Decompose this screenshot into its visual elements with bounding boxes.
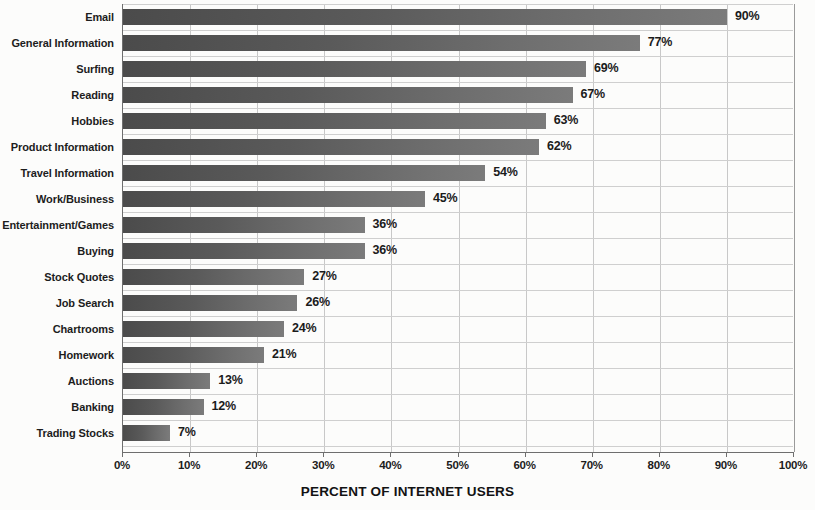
category-label: Travel Information [0,160,114,186]
bar-value-label: 63% [554,111,578,130]
category-label: Email [0,4,114,30]
bar [123,217,365,233]
x-tick-label: 10% [159,459,219,471]
bar [123,321,284,337]
category-label: Buying [0,238,114,264]
category-label: Product Information [0,134,114,160]
bar-value-label: 27% [312,267,336,286]
bar-value-label: 36% [373,215,397,234]
bar [123,139,539,155]
x-tick-mark [323,452,324,457]
bar-row: 90% [123,4,794,30]
bar [123,165,485,181]
category-label: Job Search [0,290,114,316]
category-label: General Information [0,30,114,56]
x-tick-label: 30% [293,459,353,471]
x-tick-label: 50% [428,459,488,471]
bar [123,269,304,285]
bar-value-label: 12% [212,397,236,416]
category-label: Entertainment/Games [0,212,114,238]
x-tick-label: 80% [629,459,689,471]
x-tick-mark [458,452,459,457]
bar-row: 21% [123,342,794,368]
bar [123,399,204,415]
x-tick-mark [793,452,794,457]
bar-value-label: 24% [292,319,316,338]
category-label: Stock Quotes [0,264,114,290]
bar-row: 63% [123,108,794,134]
bar-row: 7% [123,420,794,446]
bar [123,9,727,25]
x-tick-label: 40% [360,459,420,471]
row-gridline [123,446,793,447]
bar-row: 54% [123,160,794,186]
bar-value-label: 69% [594,59,618,78]
bar-value-label: 67% [581,85,605,104]
category-label: Work/Business [0,186,114,212]
bar-chart: 90%77%69%67%63%62%54%45%36%36%27%26%24%2… [0,0,815,510]
x-tick-mark [390,452,391,457]
x-axis-title: PERCENT OF INTERNET USERS [0,484,815,499]
bar-value-label: 26% [305,293,329,312]
bar-value-label: 54% [493,163,517,182]
bar-value-label: 7% [178,423,196,442]
category-label: Homework [0,342,114,368]
category-label: Banking [0,394,114,420]
x-tick-mark [256,452,257,457]
bar [123,113,546,129]
bar-row: 69% [123,56,794,82]
bar-value-label: 90% [735,7,759,26]
bar [123,373,210,389]
bar-row: 26% [123,290,794,316]
x-tick-label: 20% [226,459,286,471]
category-label: Surfing [0,56,114,82]
plot-area: 90%77%69%67%63%62%54%45%36%36%27%26%24%2… [122,4,793,452]
category-label: Chartrooms [0,316,114,342]
bar-value-label: 36% [373,241,397,260]
bar [123,87,573,103]
bar-value-label: 13% [218,371,242,390]
bar-row: 62% [123,134,794,160]
bar-row: 27% [123,264,794,290]
bar-row: 12% [123,394,794,420]
bar-row: 67% [123,82,794,108]
x-tick-label: 90% [696,459,756,471]
bar [123,61,586,77]
bar-value-label: 77% [648,33,672,52]
x-tick-mark [659,452,660,457]
bar-row: 13% [123,368,794,394]
bar-row: 36% [123,212,794,238]
x-tick-mark [726,452,727,457]
bar-row: 45% [123,186,794,212]
bar [123,425,170,441]
bar-value-label: 45% [433,189,457,208]
bar [123,347,264,363]
x-tick-label: 60% [495,459,555,471]
category-label: Hobbies [0,108,114,134]
bar-value-label: 21% [272,345,296,364]
x-tick-mark [122,452,123,457]
bar [123,35,640,51]
x-tick-label: 0% [92,459,152,471]
bar-value-label: 62% [547,137,571,156]
x-tick-mark [189,452,190,457]
category-label: Trading Stocks [0,420,114,446]
x-tick-mark [525,452,526,457]
category-label: Reading [0,82,114,108]
x-tick-label: 70% [562,459,622,471]
x-gridline [794,4,795,452]
bar [123,243,365,259]
x-tick-label: 100% [763,459,815,471]
bar-row: 36% [123,238,794,264]
bar-row: 77% [123,30,794,56]
category-label: Auctions [0,368,114,394]
bar-row: 24% [123,316,794,342]
bar [123,295,297,311]
x-tick-mark [592,452,593,457]
bar [123,191,425,207]
